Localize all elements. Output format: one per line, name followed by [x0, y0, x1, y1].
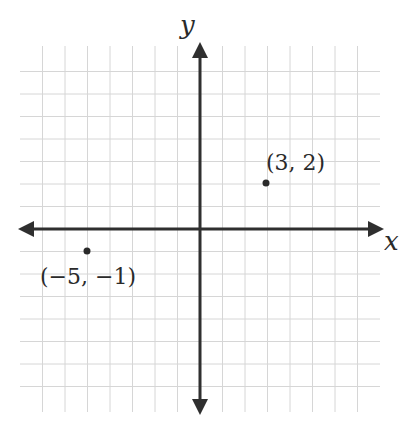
x-axis-right-arrow-icon	[368, 221, 384, 237]
point-label: (3, 2)	[266, 150, 325, 175]
x-axis-left-arrow-icon	[18, 221, 34, 237]
y-axis-down-arrow-icon	[192, 399, 208, 415]
x-axis-label: x	[384, 226, 399, 256]
point-label: (−5, −1)	[40, 264, 136, 289]
point-3-2: (3, 2)	[263, 150, 326, 187]
point-marker-icon	[263, 180, 270, 187]
point-neg5-neg1: (−5, −1)	[40, 248, 136, 290]
point-marker-icon	[84, 248, 91, 255]
coordinate-plane: y x (3, 2) (−5, −1)	[0, 0, 408, 436]
y-axis-up-arrow-icon	[192, 42, 208, 58]
y-axis-label: y	[179, 10, 195, 40]
